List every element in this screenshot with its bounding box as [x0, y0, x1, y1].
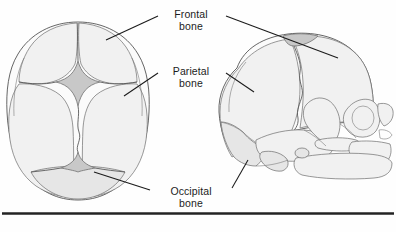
superior-view-skull	[7, 22, 149, 200]
mandible	[294, 153, 392, 179]
nasal-bone	[378, 103, 393, 126]
label-frontal-line2: bone	[160, 21, 222, 33]
label-frontal-line1: Frontal	[160, 9, 222, 21]
anatomy-figure: Frontal bone Parietal bone Occipital bon…	[0, 0, 396, 232]
label-parietal-bone: Parietal bone	[160, 66, 222, 89]
label-parietal-line1: Parietal	[160, 66, 222, 78]
mandibular-condyle	[295, 148, 309, 158]
label-parietal-line2: bone	[160, 78, 222, 90]
leader-occipital-right	[232, 160, 248, 188]
label-frontal-bone: Frontal bone	[160, 9, 222, 32]
nasal-aperture	[379, 130, 392, 139]
lateral-view-skull	[219, 33, 393, 179]
label-occipital-bone: Occipital bone	[154, 186, 228, 209]
label-occipital-line2: bone	[154, 198, 228, 210]
label-occipital-line1: Occipital	[154, 186, 228, 198]
leader-frontal-left	[106, 16, 158, 40]
